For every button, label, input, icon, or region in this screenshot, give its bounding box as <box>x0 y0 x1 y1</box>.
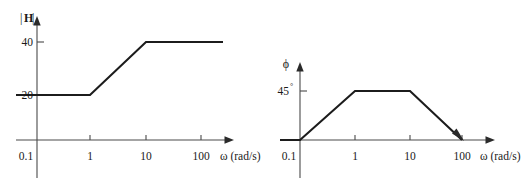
phase-x-axis-title: ω (rad/s) <box>480 150 521 163</box>
phase-ylabel-45: 45 <box>278 85 290 97</box>
phase-chart: ϕ 45 ° 0.1 1 10 100 ω (rad/s) <box>278 57 521 178</box>
phase-x-axis-arrow-icon <box>486 136 496 143</box>
bode-plot-figure: | H | 40 20 0.1 1 10 100 ω (rad/s) <box>0 0 528 188</box>
phase-trace-arrow-icon <box>452 129 464 142</box>
magnitude-chart: | H | 40 20 0.1 1 10 100 ω (rad/s) <box>16 11 261 178</box>
phase-ylabel-symbol: ϕ <box>283 57 289 71</box>
phase-ylabel-45-degree-sign: ° <box>290 82 293 91</box>
magnitude-trace <box>16 42 223 95</box>
phase-trace <box>280 91 462 140</box>
magnitude-x-axis-arrow-icon <box>225 136 235 143</box>
magnitude-ylabel-closebar: | <box>32 11 34 25</box>
magnitude-xlabel-1: 1 <box>87 150 93 162</box>
magnitude-xlabel-100: 100 <box>192 150 210 162</box>
magnitude-xlabel-10: 10 <box>140 150 152 162</box>
phase-y-axis-arrow-icon <box>296 62 303 72</box>
magnitude-ylabel-20: 20 <box>22 89 34 101</box>
magnitude-y-axis-arrow-icon <box>33 16 40 26</box>
magnitude-ylabel-40: 40 <box>22 36 34 48</box>
magnitude-xlabel-0-1: 0.1 <box>19 150 34 162</box>
phase-xlabel-0-1: 0.1 <box>282 150 297 162</box>
phase-xlabel-10: 10 <box>404 150 416 162</box>
phase-xlabel-1: 1 <box>352 150 358 162</box>
magnitude-ylabel-openbar: | <box>20 11 22 25</box>
phase-xlabel-100: 100 <box>453 150 471 162</box>
figure-canvas: | H | 40 20 0.1 1 10 100 ω (rad/s) <box>0 0 528 188</box>
magnitude-x-axis-title: ω (rad/s) <box>220 150 261 163</box>
